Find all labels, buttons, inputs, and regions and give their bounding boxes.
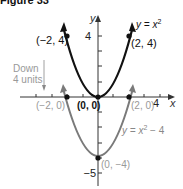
gray-arrow-left-icon: [60, 84, 67, 93]
point-label-2-0: (2, 0): [131, 100, 154, 111]
y-axis-label: y: [89, 12, 97, 24]
point-label-0-0: (0, 0): [77, 100, 100, 111]
parabola-shift-diagram: y 4 −5 4 x y = x2 y = x2 − 4 (−2, 4) (2,…: [0, 0, 183, 189]
shift-annotation-line2: 4 units: [13, 74, 42, 85]
y-tick-4-label: 4: [85, 30, 91, 42]
x-axis-label: x: [169, 97, 176, 109]
point-label-neg2-4: (−2, 4): [36, 34, 68, 46]
point-label-0-neg4: (0, −4): [101, 159, 130, 170]
curve2-label: y = x2 − 4: [121, 124, 165, 136]
shift-annotation-line1: Down: [13, 63, 39, 74]
curve1-label: y = x2: [135, 18, 161, 30]
down-arrow-icon: [42, 85, 46, 91]
point-label-2-4: (2, 4): [131, 37, 157, 49]
point-label-neg2-0: (−2, 0): [36, 100, 65, 111]
y-tick-neg5-label: −5: [83, 167, 96, 179]
black-arrow-right-icon: [129, 22, 136, 32]
black-arrow-left-icon: [60, 22, 67, 32]
gray-arrow-right-icon: [129, 84, 136, 93]
y-axis-arrow-icon: [95, 15, 101, 22]
